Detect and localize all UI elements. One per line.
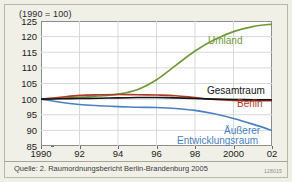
x-axis-tick-label: 02 xyxy=(267,148,278,159)
x-axis-tick-mark xyxy=(80,146,81,149)
x-axis-tick-label: 1990 xyxy=(30,148,51,159)
x-axis-labels: 199092949698200002 xyxy=(0,148,292,162)
y-axis-tick-mark xyxy=(51,146,54,147)
y-axis-tick-label: 100 xyxy=(13,95,37,104)
x-axis-tick-mark xyxy=(118,146,119,149)
figure-container: (1990 = 100) 859095100105110115120125 19… xyxy=(0,0,292,182)
y-axis-tick-label: 120 xyxy=(13,32,37,41)
y-axis-tick-label: 110 xyxy=(13,63,37,72)
x-axis-tick-label: 2000 xyxy=(223,148,244,159)
x-axis-tick-mark xyxy=(234,146,235,149)
y-axis-tick-label: 125 xyxy=(13,17,37,26)
y-axis-labels: 859095100105110115120125 xyxy=(13,21,37,146)
x-axis-tick-label: 94 xyxy=(113,148,124,159)
figure-id: 128015 xyxy=(264,168,282,174)
series-label-gesamtraum: Gesamtraum xyxy=(207,86,265,97)
x-axis-tick-mark xyxy=(195,146,196,149)
x-axis-tick-label: 98 xyxy=(190,148,201,159)
x-axis-tick-label: 92 xyxy=(74,148,85,159)
y-axis-tick-label: 115 xyxy=(13,48,37,57)
x-axis-tick-mark xyxy=(41,146,42,149)
y-axis-tick-label: 95 xyxy=(13,110,37,119)
y-axis-tick-label: 90 xyxy=(13,126,37,135)
footer-divider xyxy=(5,161,287,162)
y-axis-tick-label: 105 xyxy=(13,79,37,88)
series-label-entwicklungsraum: Entwicklungsraum xyxy=(177,136,258,147)
series-label-berlin: Berlin xyxy=(237,99,263,110)
x-axis-tick-mark xyxy=(272,146,273,149)
x-axis-tick-mark xyxy=(157,146,158,149)
x-axis-tick-label: 96 xyxy=(151,148,162,159)
series-label-umland: Umland xyxy=(208,36,242,47)
source-note: Quelle: 2. Raumordnungsbericht Berlin-Br… xyxy=(14,164,208,173)
